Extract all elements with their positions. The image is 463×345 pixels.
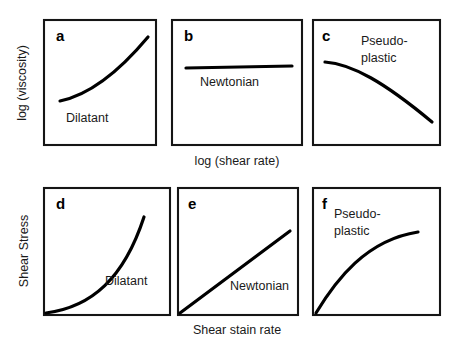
- panel-c-letter: c: [322, 27, 330, 44]
- panel-d-letter: d: [56, 195, 65, 212]
- panel-b-curve: [186, 66, 292, 68]
- bottom-row-y-axis-label: Shear Stress: [17, 215, 31, 287]
- panel-e-letter: e: [188, 195, 196, 212]
- panel-b-letter: b: [184, 27, 193, 44]
- panel-f-curve-label-line1: Pseudo-: [334, 207, 381, 221]
- panel-f-curve-label-line2: plastic: [334, 224, 369, 238]
- panel-a: a Dilatant: [44, 20, 156, 145]
- panel-b: b Newtonian: [172, 20, 302, 145]
- panel-b-curve-label: Newtonian: [200, 75, 259, 89]
- panel-c-curve-label-line2: plastic: [361, 51, 396, 65]
- top-row-x-axis-label: log (shear rate): [195, 154, 280, 168]
- panel-e-curve-label: Newtonian: [230, 279, 289, 293]
- panel-d: d Dilatant: [44, 188, 170, 315]
- panel-a-letter: a: [56, 27, 65, 44]
- panel-e: e Newtonian: [178, 188, 298, 315]
- panel-f: f Pseudo- plastic: [313, 188, 440, 315]
- panel-c: c Pseudo- plastic: [313, 20, 440, 145]
- top-row-y-axis-label: log (viscosity): [15, 45, 29, 121]
- panel-a-curve-label: Dilatant: [66, 111, 109, 125]
- panel-c-curve-label-line1: Pseudo-: [361, 34, 408, 48]
- panel-d-curve-label: Dilatant: [105, 274, 148, 288]
- rheology-figure: a Dilatant b Newtonian c Pseudo- plastic…: [0, 0, 463, 345]
- bottom-row-x-axis-label: Shear stain rate: [193, 323, 281, 337]
